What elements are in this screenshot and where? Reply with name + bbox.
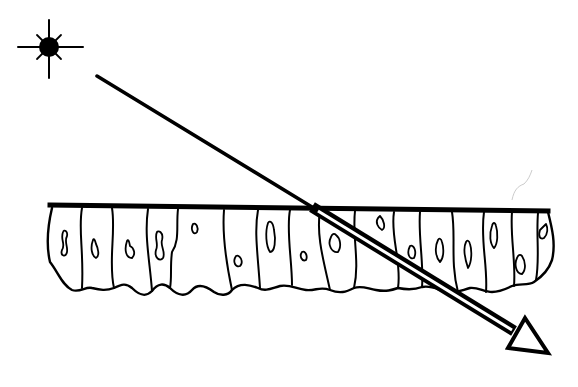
incident-ray [97,76,312,207]
light-penetration-diagram [0,0,578,387]
hollow-triangle-arrow-icon [508,318,548,353]
surface-line [50,205,548,211]
cell-nuclei [62,216,548,274]
cell-layer [48,208,554,295]
diagram-canvas [0,0,578,387]
sun-icon [18,20,83,78]
